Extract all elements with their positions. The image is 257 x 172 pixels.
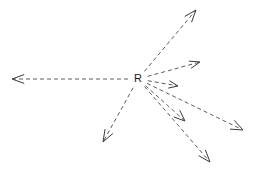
ray-lower-right-far-arrowhead-icon [230,120,243,130]
radiating-rays-svg: R [0,0,257,172]
ray-lower-left [103,88,133,142]
ray-right-shaft [148,81,177,86]
ray-upper-right-shallow [148,61,200,76]
ray-right [148,81,178,88]
ray-lower-right-steep-shaft [145,87,209,161]
ray-upper-right-steep-shaft [144,11,195,71]
ray-lower-left-shaft [104,88,133,141]
ray-upper-right-steep [144,10,196,71]
vector-diagram-figure: R [0,0,257,172]
ray-lower-right-mid [145,86,185,121]
center-point-label: R [134,72,142,84]
ray-lower-right-steep [145,87,210,162]
ray-upper-right-shallow-shaft [148,62,199,76]
rays-group [12,10,243,162]
ray-lower-left-arrowhead-icon [103,129,113,142]
ray-left [12,75,128,84]
ray-lower-right-mid-shaft [145,86,183,120]
ray-lower-right-far [147,83,243,130]
ray-lower-right-far-shaft [147,83,242,129]
